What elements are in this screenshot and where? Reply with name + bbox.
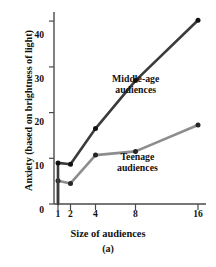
figure-panel: Anxiety (based on brightness of light) 4… (0, 0, 216, 267)
chart-svg (48, 12, 208, 212)
series-annotation-teenage: Teenage audiences (117, 152, 158, 174)
series-annotation-teenage-line1: Teenage (120, 151, 154, 162)
series-annotation-middle-age: Middle-age audiences (112, 74, 159, 96)
y-tick-label: 10 (22, 161, 44, 171)
x-tick-label: 16 (186, 209, 210, 219)
x-tick-label: 8 (124, 209, 148, 219)
y-axis-ticks (49, 21, 54, 204)
y-tick-label: 20 (22, 117, 44, 127)
y-axis-tick-labels: 40 30 20 10 0 (20, 12, 44, 204)
series-annotation-teenage-line2: audiences (117, 162, 158, 173)
x-axis-title: Size of audiences (0, 228, 216, 239)
x-tick-label: 2 (59, 209, 83, 219)
series-annotation-middle-age-line1: Middle-age (112, 73, 159, 84)
x-tick-label: 4 (84, 209, 108, 219)
y-tick-label: 30 (22, 74, 44, 84)
x-axis-tick-labels: 1 2 4 8 16 (48, 209, 208, 223)
plot-area (48, 12, 208, 204)
series-line-middle-age (58, 20, 198, 204)
figure-caption: (a) (0, 243, 216, 254)
series-annotation-middle-age-line2: audiences (115, 84, 156, 95)
y-tick-label: 0 (22, 205, 44, 215)
y-tick-label: 40 (22, 30, 44, 40)
